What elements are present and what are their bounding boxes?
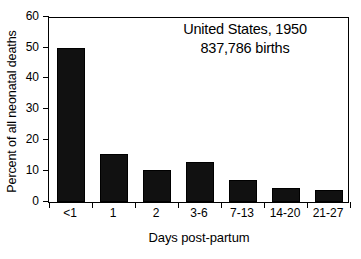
y-tick-20: 20 xyxy=(43,139,49,140)
x-tick-label-2: 2 xyxy=(153,206,160,220)
bar-category-5 xyxy=(272,188,300,202)
y-tick-label-50: 50 xyxy=(26,40,39,55)
x-tick-label-0: <1 xyxy=(63,206,77,220)
y-tick-label-40: 40 xyxy=(26,70,39,85)
bar-category-0 xyxy=(57,48,85,202)
x-tick-2 xyxy=(135,202,136,208)
y-tick-40: 40 xyxy=(43,77,49,78)
x-tick-1 xyxy=(92,202,93,208)
x-tick-label-3: 3-6 xyxy=(190,206,207,220)
y-tick-label-30: 30 xyxy=(26,101,39,116)
y-tick-label-0: 0 xyxy=(32,194,39,209)
x-tick-4 xyxy=(221,202,222,208)
y-tick-label-10: 10 xyxy=(26,163,39,178)
annotation-line-2: 837,786 births xyxy=(150,39,340,58)
annotation-line-1: United States, 1950 xyxy=(150,20,340,39)
x-tick-5 xyxy=(264,202,265,208)
bar-category-4 xyxy=(229,180,257,202)
x-tick-label-6: 21-27 xyxy=(313,206,344,220)
x-tick-0 xyxy=(49,202,50,208)
x-axis-label: Days post-partum xyxy=(48,230,350,245)
bar-category-2 xyxy=(143,170,171,202)
y-tick-label-60: 60 xyxy=(26,9,39,24)
y-tick-60: 60 xyxy=(43,16,49,17)
x-tick-6 xyxy=(307,202,308,208)
y-axis-label: Percent of all neonatal deaths xyxy=(2,4,22,219)
bar-category-6 xyxy=(315,190,343,202)
x-tick-3 xyxy=(178,202,179,208)
x-tick-label-1: 1 xyxy=(110,206,117,220)
bar-category-3 xyxy=(186,162,214,202)
chart-annotation: United States, 1950 837,786 births xyxy=(150,20,340,58)
y-tick-label-20: 20 xyxy=(26,132,39,147)
y-tick-10: 10 xyxy=(43,170,49,171)
bar-chart-figure: Percent of all neonatal deaths 0 10 20 3… xyxy=(0,0,361,259)
bar-category-1 xyxy=(100,154,128,202)
y-tick-30: 30 xyxy=(43,108,49,109)
x-tick-label-5: 14-20 xyxy=(270,206,301,220)
x-tick-label-4: 7-13 xyxy=(230,206,254,220)
x-tick-7 xyxy=(350,202,351,208)
y-tick-50: 50 xyxy=(43,47,49,48)
